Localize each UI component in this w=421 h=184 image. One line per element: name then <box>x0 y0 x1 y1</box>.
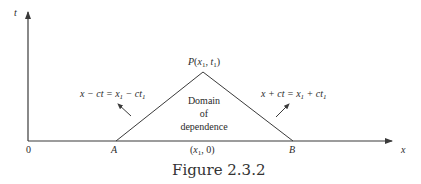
foot-label: (x1, 0) <box>190 145 215 155</box>
domain-of-dependence-label: Domain of dependence <box>173 94 235 133</box>
figure-caption: Figure 2.3.2 <box>172 163 265 178</box>
point-a-label: A <box>111 145 117 155</box>
right-characteristic-equation: x + ct = x1 + ct1 <box>261 89 327 99</box>
apex-label: P(x1, t1) <box>188 57 220 67</box>
left-pointer-arrow-icon <box>118 104 131 116</box>
point-b-label: B <box>289 145 295 155</box>
t-axis-label: t <box>14 8 17 18</box>
x-axis-label: x <box>401 145 405 155</box>
origin-label: 0 <box>26 145 31 155</box>
figure-canvas <box>0 0 421 184</box>
right-pointer-arrow-icon <box>276 104 289 117</box>
left-characteristic-equation: x − ct = x1 − ct1 <box>80 89 146 99</box>
